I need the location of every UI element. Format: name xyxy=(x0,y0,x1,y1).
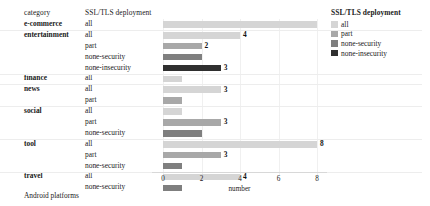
deployment-label: none-security xyxy=(85,182,125,191)
column-header-deployment: SSL/TLS deployment xyxy=(85,8,151,17)
table-row: toolall xyxy=(0,139,152,150)
table-row: none-security xyxy=(0,128,152,139)
bar[interactable] xyxy=(163,76,182,83)
figure-caption: Android platforms xyxy=(24,191,79,200)
bar[interactable] xyxy=(163,32,240,39)
legend-swatch-icon xyxy=(331,40,338,47)
bar[interactable] xyxy=(163,65,221,72)
legend-item-label: none-security xyxy=(341,39,381,48)
legend-swatch-icon xyxy=(331,21,338,28)
table-row: part xyxy=(0,150,152,161)
bar[interactable] xyxy=(163,86,221,93)
deployment-label: part xyxy=(85,150,97,159)
category-label: news xyxy=(24,84,40,93)
x-axis-tick: 0 xyxy=(161,175,165,183)
x-axis-tick: 8 xyxy=(315,175,319,183)
category-label: social xyxy=(24,106,42,115)
legend-swatch-icon xyxy=(331,31,338,38)
bar-value-label: 3 xyxy=(224,150,228,159)
bar[interactable] xyxy=(163,130,202,137)
legend-item[interactable]: none-security xyxy=(331,39,427,49)
bar[interactable] xyxy=(163,43,202,50)
category-label: entertainment xyxy=(24,30,69,39)
bar-row xyxy=(152,128,327,139)
x-axis-tick: 6 xyxy=(277,175,281,183)
bar-value-label: 8 xyxy=(320,139,324,148)
deployment-label: none-security xyxy=(85,161,125,170)
bar[interactable] xyxy=(163,21,317,28)
chart-figure: category SSL/TLS deployment e-commerceal… xyxy=(0,0,430,206)
bar[interactable] xyxy=(163,97,182,104)
bar-row: 2 xyxy=(152,41,327,52)
bar-row xyxy=(152,19,327,30)
bar-value-label: 2 xyxy=(205,41,209,50)
table-row: none-insecurity xyxy=(0,63,152,74)
x-axis: 02468 number xyxy=(152,172,327,196)
bar-row xyxy=(152,161,327,172)
deployment-label: part xyxy=(85,117,97,126)
bar-row xyxy=(152,74,327,85)
bar-row: 3 xyxy=(152,150,327,161)
bar-row: 4 xyxy=(152,30,327,41)
deployment-label: all xyxy=(85,171,92,180)
category-label: e-commerce xyxy=(24,19,62,28)
x-axis-tick: 4 xyxy=(238,175,242,183)
x-axis-line xyxy=(152,172,327,173)
bar-value-label: 4 xyxy=(243,30,247,39)
bar[interactable] xyxy=(163,119,221,126)
table-row: part xyxy=(0,95,152,106)
bar[interactable] xyxy=(163,163,182,170)
bar-value-label: 3 xyxy=(224,117,228,126)
table-row: entertainmentall xyxy=(0,30,152,41)
deployment-label: none-insecurity xyxy=(85,63,131,72)
bar-row xyxy=(152,52,327,63)
deployment-label: part xyxy=(85,41,97,50)
table-row: travelall xyxy=(0,171,152,182)
deployment-label: all xyxy=(85,139,92,148)
deployment-label: none-security xyxy=(85,52,125,61)
legend-item-label: all xyxy=(341,20,348,29)
row-label-table: category SSL/TLS deployment e-commerceal… xyxy=(0,8,152,176)
table-header-row: category SSL/TLS deployment xyxy=(0,8,152,19)
table-row: none-security xyxy=(0,161,152,172)
bar-row: 3 xyxy=(152,84,327,95)
legend-swatch-icon xyxy=(331,50,338,57)
deployment-label: all xyxy=(85,73,92,82)
bar-row: 3 xyxy=(152,63,327,74)
category-label: finance xyxy=(24,73,47,82)
legend-item-label: part xyxy=(341,29,353,38)
legend: SSL/TLS deployment allpartnone-securityn… xyxy=(331,8,427,58)
legend-item[interactable]: part xyxy=(331,29,427,39)
bar-value-label: 3 xyxy=(224,85,228,94)
legend-item[interactable]: all xyxy=(331,20,427,30)
bar[interactable] xyxy=(163,152,221,159)
bar-row: 3 xyxy=(152,117,327,128)
bar[interactable] xyxy=(163,54,202,61)
column-header-category: category xyxy=(24,8,50,17)
table-row: financeall xyxy=(0,73,152,84)
bar-row xyxy=(152,95,327,106)
legend-item[interactable]: none-insecurity xyxy=(331,48,427,58)
category-label: tool xyxy=(24,139,36,148)
table-row: part xyxy=(0,41,152,52)
x-axis-label: number xyxy=(152,185,327,193)
table-row: newsall xyxy=(0,84,152,95)
bar[interactable] xyxy=(163,108,182,115)
legend-item-label: none-insecurity xyxy=(341,49,387,58)
table-row: none-security xyxy=(0,52,152,63)
table-row: e-commerceall xyxy=(0,19,152,30)
table-row: socialall xyxy=(0,106,152,117)
legend-title: SSL/TLS deployment xyxy=(331,8,427,17)
deployment-label: all xyxy=(85,30,92,39)
bar-value-label: 3 xyxy=(224,63,228,72)
deployment-label: none-security xyxy=(85,128,125,137)
bar[interactable] xyxy=(163,141,317,148)
bar-row: 8 xyxy=(152,139,327,150)
plot-area: 42333834 xyxy=(152,19,327,176)
x-axis-tick: 2 xyxy=(200,175,204,183)
category-label: travel xyxy=(24,171,42,180)
table-row: part xyxy=(0,117,152,128)
bar-row xyxy=(152,106,327,117)
deployment-label: all xyxy=(85,19,92,28)
deployment-label: all xyxy=(85,84,92,93)
